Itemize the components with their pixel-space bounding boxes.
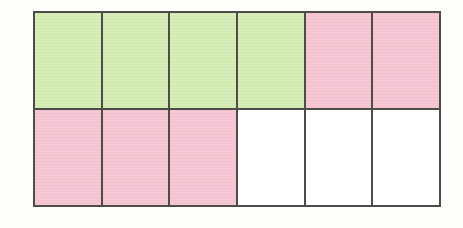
grid-cell-r2c2[interactable] [103, 110, 169, 205]
fraction-bar-grid [33, 11, 441, 207]
grid-cell-r1c4[interactable] [238, 13, 304, 108]
grid-cell-r1c1[interactable] [35, 13, 101, 108]
grid-cell-r2c3[interactable] [170, 110, 236, 205]
grid-cell-r2c6[interactable] [373, 110, 439, 205]
grid-cell-r1c3[interactable] [170, 13, 236, 108]
grid-cell-r2c1[interactable] [35, 110, 101, 205]
grid-cell-r1c2[interactable] [103, 13, 169, 108]
grid-cell-r1c6[interactable] [373, 13, 439, 108]
grid-cell-r2c4[interactable] [238, 110, 304, 205]
grid-cell-r1c5[interactable] [306, 13, 372, 108]
grid-cell-r2c5[interactable] [306, 110, 372, 205]
